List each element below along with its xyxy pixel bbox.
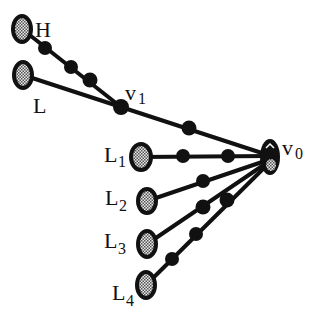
- dot: [189, 227, 203, 241]
- label-H: H: [35, 17, 51, 42]
- label-L2: L: [105, 185, 118, 210]
- dot: [176, 149, 190, 163]
- label-L1-sub: 1: [118, 153, 126, 170]
- dot: [64, 60, 78, 74]
- label-v1-sub: 1: [138, 90, 146, 107]
- dot: [38, 41, 52, 55]
- edge-L1-v0: [141, 156, 268, 157]
- label-L3-sub: 3: [118, 240, 126, 257]
- label-L: L: [33, 93, 46, 118]
- label-L1: L: [104, 142, 117, 167]
- label-L2-sub: 2: [119, 197, 127, 214]
- node-L1: [131, 144, 151, 170]
- node-L4: [137, 272, 155, 298]
- dot: [196, 200, 211, 215]
- node-L2: [138, 189, 156, 213]
- node-v0: [260, 139, 280, 175]
- dot: [83, 73, 98, 88]
- dot: [221, 149, 235, 163]
- terminal-nodes: [13, 16, 156, 298]
- node-L3: [138, 231, 156, 257]
- dot: [196, 174, 210, 188]
- dot: [182, 121, 197, 136]
- label-L4-sub: 4: [126, 292, 134, 309]
- node-L: [14, 62, 32, 88]
- dot: [220, 193, 235, 208]
- label-L3: L: [104, 228, 117, 253]
- graph-diagram: H L v 1 v 0 L 1 L 2 L 3 L 4: [0, 0, 319, 316]
- label-v1: v: [125, 80, 136, 105]
- node-H: [13, 16, 31, 42]
- label-L4: L: [112, 280, 125, 305]
- dot: [165, 252, 179, 266]
- label-v0-sub: 0: [295, 145, 303, 162]
- label-v0: v: [282, 135, 293, 160]
